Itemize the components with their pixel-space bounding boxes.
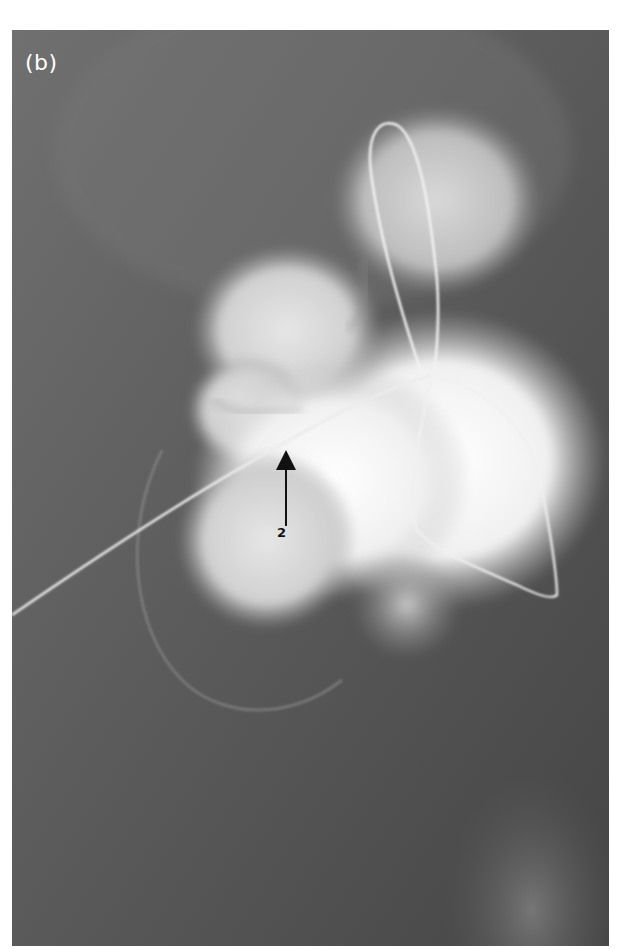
radiograph-image: (b) 2 (12, 30, 609, 946)
panel-label: (b) (25, 50, 58, 75)
arrow-up-icon (274, 448, 298, 528)
arrow-label: 2 (277, 525, 286, 540)
radiograph-graphic (12, 30, 609, 946)
